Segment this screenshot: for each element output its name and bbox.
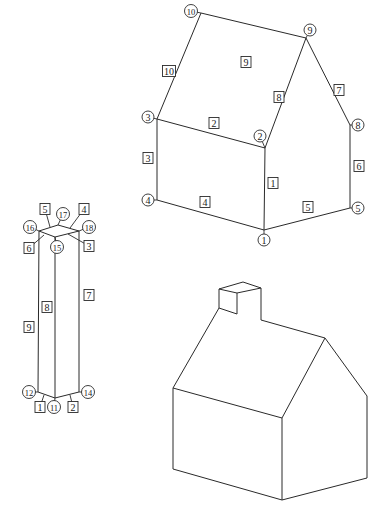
- edge-label: 5: [303, 202, 313, 213]
- edge-label: 9: [241, 57, 251, 68]
- edge-label-text: 7: [337, 85, 342, 96]
- vertex-label-text: 4: [146, 195, 151, 206]
- edge-line: [39, 231, 55, 237]
- edge-label: 7: [84, 290, 94, 301]
- vertex-label-text: 12: [25, 388, 34, 398]
- edge-label-text: 1: [271, 178, 276, 189]
- house-outline-line: [219, 282, 261, 308]
- vertex-label-text: 5: [356, 203, 361, 214]
- edge-label: 2: [68, 402, 78, 413]
- vertex-label: 18: [83, 221, 96, 234]
- vertex-label: 10: [185, 5, 198, 18]
- edge-label: 9: [24, 322, 34, 333]
- edge-line: [55, 231, 79, 237]
- vertex-label: 16: [24, 221, 37, 234]
- edge-label-text: 8: [45, 302, 50, 313]
- labeled-column-figure: 12345678911121415161718: [23, 204, 96, 414]
- edge-label: 4: [79, 204, 89, 215]
- edge-line: [58, 225, 79, 231]
- edge-label-text: 8: [277, 92, 282, 103]
- vertex-label-text: 10: [187, 7, 196, 17]
- edge-line: [265, 38, 306, 148]
- vertex-label-text: 14: [84, 388, 93, 398]
- vertex-label: 9: [304, 24, 316, 36]
- vertex-label-text: 18: [85, 223, 94, 233]
- house-outline-line: [173, 308, 237, 388]
- vertex-label-text: 17: [59, 210, 68, 220]
- edge-line: [55, 392, 79, 398]
- vertex-label: 3: [142, 111, 154, 123]
- vertex-label: 1: [258, 234, 270, 246]
- edge-label: 1: [268, 178, 278, 189]
- house-outline-line: [261, 320, 325, 338]
- vertex-label-text: 11: [50, 403, 58, 413]
- vertex-label-text: 3: [146, 112, 151, 123]
- edge-label-text: 9: [244, 57, 249, 68]
- plain-house-with-chimney-figure: [173, 282, 367, 500]
- vertex-label: 8: [352, 119, 364, 131]
- vertex-label: 5: [352, 202, 364, 214]
- diagram-canvas: 12345678910123458910 1234567891112141516…: [0, 0, 392, 523]
- vertex-leader-line: [154, 118, 157, 119]
- edge-label: 3: [84, 241, 94, 252]
- edge-label: 1: [35, 402, 45, 413]
- vertex-label: 12: [23, 386, 36, 399]
- edge-label-text: 1: [38, 402, 43, 413]
- labeled-house-figure: 12345678910123458910: [142, 5, 364, 247]
- edge-line: [38, 392, 55, 398]
- edge-label-text: 4: [82, 204, 87, 215]
- edge-label: 2: [209, 118, 219, 129]
- edge-label: 5: [40, 204, 50, 215]
- vertex-label: 2: [254, 130, 266, 142]
- vertex-label-text: 16: [26, 223, 35, 233]
- edge-label-text: 3: [87, 241, 92, 252]
- edge-label: 8: [42, 302, 52, 313]
- vertex-label-text: 9: [308, 25, 313, 36]
- edge-line: [157, 200, 264, 230]
- vertex-label: 14: [82, 386, 95, 399]
- edge-line: [264, 148, 265, 230]
- vertex-label: 11: [48, 401, 61, 414]
- vertex-label: 17: [57, 208, 70, 221]
- edge-label-text: 5: [306, 202, 311, 213]
- vertex-label-text: 2: [258, 131, 263, 142]
- vertex-label-text: 8: [356, 120, 361, 131]
- edge-label: 8: [274, 92, 284, 103]
- edge-label: 10: [163, 66, 176, 77]
- edge-label-text: 9: [27, 322, 32, 333]
- edge-label: 4: [200, 197, 210, 208]
- edge-label-text: 6: [357, 161, 362, 172]
- vertex-label: 4: [142, 194, 154, 206]
- edge-label-text: 5: [43, 204, 48, 215]
- edge-line: [201, 13, 306, 38]
- vertex-label-text: 1: [262, 235, 267, 246]
- edge-label: 6: [354, 161, 364, 172]
- edge-label-text: 4: [203, 197, 208, 208]
- edge-label: 6: [24, 243, 34, 254]
- edge-label-text: 7: [87, 290, 92, 301]
- edge-line: [39, 225, 58, 231]
- vertex-label-text: 15: [53, 243, 62, 253]
- edge-label-text: 2: [71, 402, 76, 413]
- edge-label: 3: [143, 153, 153, 164]
- edge-label-text: 10: [164, 66, 174, 77]
- house-outline-line: [173, 338, 367, 500]
- edge-label-text: 3: [146, 153, 151, 164]
- edge-line: [38, 231, 39, 392]
- vertex-label: 15: [51, 241, 64, 254]
- edge-label: 7: [334, 85, 344, 96]
- edge-line: [306, 38, 350, 125]
- edge-label-text: 6: [27, 243, 32, 254]
- edge-label-text: 2: [212, 118, 217, 129]
